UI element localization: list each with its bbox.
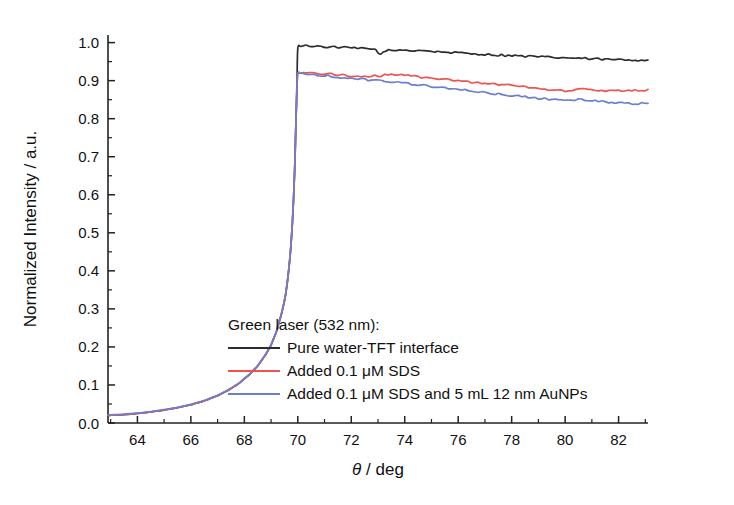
legend-title: Green laser (532 nm): [228,316,380,333]
y-tick-label: 0.9 [78,72,99,89]
x-axis-title: θ / deg [352,460,404,479]
y-axis-title: Normalized Intensity / a.u. [21,131,40,328]
legend-label-2: Added 0.1 μM SDS and 5 mL 12 nm AuNPs [287,385,588,402]
x-tick-label: 78 [503,431,520,448]
plot-area: 0.00.10.20.30.40.50.60.70.80.91.06466687… [21,34,648,479]
reflectivity-chart: 0.00.10.20.30.40.50.60.70.80.91.06466687… [0,0,734,505]
x-tick-label: 72 [343,431,360,448]
y-tick-label: 0.5 [78,224,99,241]
y-tick-label: 0.8 [78,110,99,127]
y-tick-label: 0.0 [78,415,99,432]
legend-label-1: Added 0.1 μM SDS [287,362,420,379]
y-tick-label: 1.0 [78,34,99,51]
x-tick-label: 70 [289,431,306,448]
y-tick-label: 0.2 [78,338,99,355]
figure-container: 0.00.10.20.30.40.50.60.70.80.91.06466687… [0,0,734,505]
y-tick-label: 0.6 [78,186,99,203]
legend-label-0: Pure water-TFT interface [287,339,459,356]
y-tick-label: 0.7 [78,148,99,165]
y-tick-label: 0.3 [78,300,99,317]
x-tick-label: 66 [183,431,200,448]
x-tick-label: 82 [610,431,627,448]
y-tick-label: 0.1 [78,376,99,393]
x-tick-label: 68 [236,431,253,448]
x-tick-label: 80 [557,431,574,448]
x-tick-label: 74 [396,431,413,448]
y-tick-label: 0.4 [78,262,99,279]
x-tick-label: 64 [129,431,146,448]
x-tick-label: 76 [450,431,467,448]
